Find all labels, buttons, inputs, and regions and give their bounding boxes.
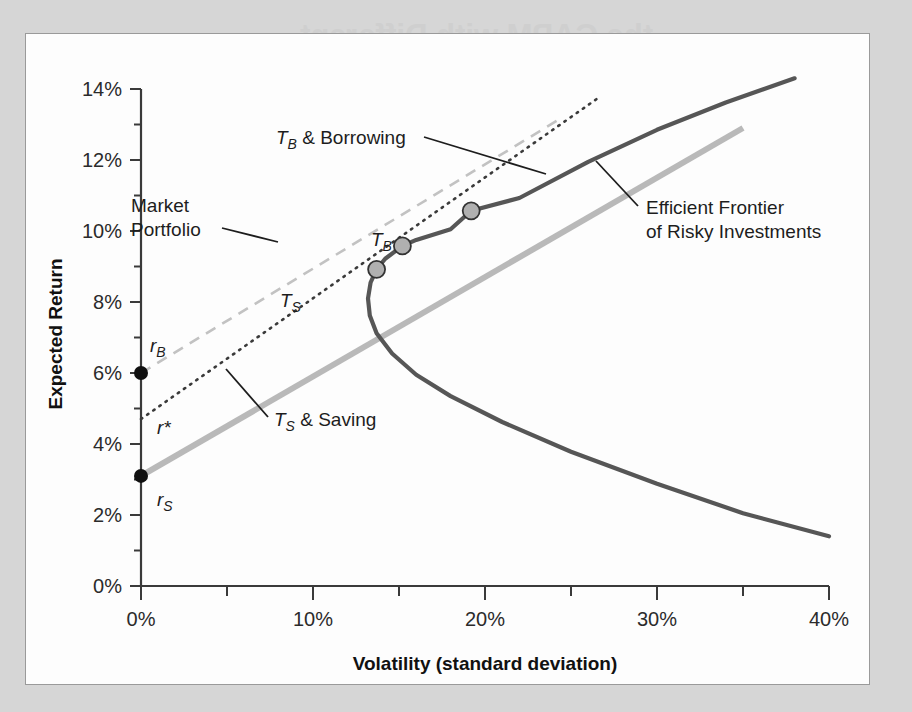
leader-market-portfolio xyxy=(222,228,278,242)
annotation-ts-saving-rest: & Saving xyxy=(295,409,376,430)
y-tick-label-6: 6% xyxy=(93,362,122,384)
figure-panel: 14% 12% 10% 8% 6% 4% 2% 0% 0% 10% 20% 30… xyxy=(25,33,870,685)
annotation-tb-borrowing-sub: B xyxy=(288,136,297,152)
annotation-tb-borrowing: TB & Borrowing xyxy=(276,127,406,152)
y-tick-label-14: 14% xyxy=(82,78,122,100)
leader-tb-borrowing xyxy=(424,137,546,174)
annotation-ts-marker: TS xyxy=(280,290,302,315)
annotation-market-portfolio-line1: Market xyxy=(131,195,190,216)
marker-tb[interactable] xyxy=(463,202,480,219)
axes-group: 14% 12% 10% 8% 6% 4% 2% 0% 0% 10% 20% 30… xyxy=(45,78,849,674)
y-tick-label-12: 12% xyxy=(82,149,122,171)
annotation-tb-borrowing-rest: & Borrowing xyxy=(297,127,406,148)
x-tick-label-0: 0% xyxy=(127,608,156,630)
y-tick-label-10: 10% xyxy=(82,220,122,242)
annotations-group: TB & Borrowing Market Portfolio Efficien… xyxy=(131,127,821,514)
annotation-market-portfolio-line2: Portfolio xyxy=(131,219,201,240)
annotation-rb: rB xyxy=(150,335,166,360)
marker-market-portfolio[interactable] xyxy=(394,237,411,254)
y-tick-label-8: 8% xyxy=(93,291,122,313)
x-axis-title: Volatility (standard deviation) xyxy=(353,653,618,674)
y-tick-label-4: 4% xyxy=(93,433,122,455)
annotation-ts-saving: TS & Saving xyxy=(274,409,376,434)
chart-canvas: 14% 12% 10% 8% 6% 4% 2% 0% 0% 10% 20% 30… xyxy=(26,34,869,684)
leader-ts-saving xyxy=(226,369,268,417)
y-axis-tick-labels: 14% 12% 10% 8% 6% 4% 2% 0% xyxy=(82,78,122,597)
annotation-ts-marker-sub: S xyxy=(292,299,302,315)
y-tick-label-0: 0% xyxy=(93,575,122,597)
x-tick-label-20: 20% xyxy=(465,608,505,630)
series-tb-borrowing-line xyxy=(141,117,562,373)
x-axis-major-ticks xyxy=(141,586,829,600)
annotation-rstar: r* xyxy=(157,417,171,438)
x-axis-tick-labels: 0% 10% 20% 30% 40% xyxy=(127,608,850,630)
marker-rs[interactable] xyxy=(134,469,148,483)
annotation-rs: rS xyxy=(157,489,173,514)
annotation-rs-sub: S xyxy=(163,498,173,514)
x-tick-label-40: 40% xyxy=(809,608,849,630)
annotation-efficient-frontier-line2: of Risky Investments xyxy=(646,221,821,242)
annotation-tb-marker-sub: B xyxy=(383,238,392,254)
markers-group xyxy=(134,202,480,483)
leader-lines-group xyxy=(222,137,638,417)
y-axis-title: Expected Return xyxy=(45,259,66,410)
y-tick-label-2: 2% xyxy=(93,504,122,526)
series-ts-saving-line xyxy=(141,128,743,476)
annotation-rb-sub: B xyxy=(156,344,165,360)
marker-rb[interactable] xyxy=(134,366,148,380)
annotation-efficient-frontier-line1: Efficient Frontier xyxy=(646,197,785,218)
marker-ts[interactable] xyxy=(368,261,385,278)
x-tick-label-30: 30% xyxy=(637,608,677,630)
x-tick-label-10: 10% xyxy=(293,608,333,630)
